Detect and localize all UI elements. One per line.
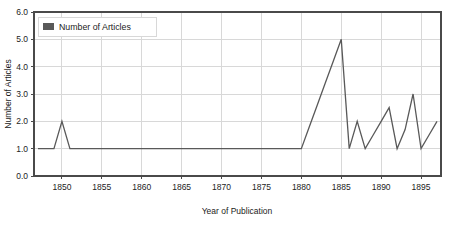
x-tick-label: 1885: [332, 182, 351, 192]
line-chart-figure: 0.01.02.03.04.05.06.0 185018551860186518…: [0, 0, 452, 235]
y-tick-label: 0.0: [16, 171, 28, 181]
chart-svg: 0.01.02.03.04.05.06.0 185018551860186518…: [0, 0, 452, 235]
y-tick-label: 3.0: [16, 89, 28, 99]
x-tick-label: 1890: [372, 182, 391, 192]
y-tick-label: 2.0: [16, 116, 28, 126]
x-tick-label: 1860: [132, 182, 151, 192]
x-tick-label: 1895: [412, 182, 431, 192]
y-tick-label: 5.0: [16, 34, 28, 44]
chart-legend: Number of Articles: [38, 17, 156, 36]
x-tick-label: 1880: [292, 182, 311, 192]
y-axis-title: Number of Articles: [3, 59, 13, 128]
y-tick-label: 6.0: [16, 7, 28, 17]
y-tick-label: 4.0: [16, 62, 28, 72]
x-axis-title: Year of Publication: [202, 206, 273, 216]
y-tick-label: 1.0: [16, 144, 28, 154]
x-tick-label: 1870: [212, 182, 231, 192]
x-tick-label: 1875: [252, 182, 271, 192]
x-tick-label: 1850: [52, 182, 71, 192]
x-tick-label: 1855: [92, 182, 111, 192]
x-tick-label: 1865: [172, 182, 191, 192]
legend-label: Number of Articles: [59, 22, 131, 32]
legend-swatch-icon: [43, 23, 54, 30]
